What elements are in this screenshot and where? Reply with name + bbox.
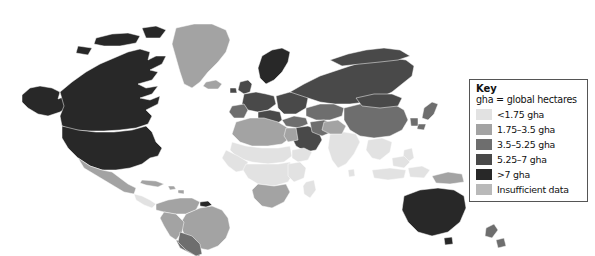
swatch-insufficient-data: [476, 184, 492, 195]
world-map-figure: Key gha = global hectares <1.75 gha 1.75…: [0, 0, 595, 256]
region-tasmania: [444, 237, 453, 245]
legend-label-insufficient-data: Insufficient data: [497, 184, 569, 195]
legend-label-3-5-to-5-25: 3.5–5.25 gha: [497, 139, 555, 150]
swatch-1-75-to-3-5: [476, 124, 492, 135]
swatch-over-7: [476, 169, 492, 180]
legend-label-1-75-to-3-5: 1.75–3.5 gha: [497, 124, 555, 135]
legend-item-5-25-to-7: 5.25–7 gha: [476, 152, 582, 167]
map-legend: Key gha = global hectares <1.75 gha 1.75…: [469, 79, 588, 202]
legend-label-over-7: >7 gha: [497, 169, 530, 180]
legend-item-insufficient-data: Insufficient data: [476, 182, 582, 197]
legend-item-3-5-to-5-25: 3.5–5.25 gha: [476, 137, 582, 152]
swatch-under-1-75: [476, 109, 492, 120]
legend-subtitle: gha = global hectares: [476, 94, 582, 106]
swatch-3-5-to-5-25: [476, 139, 492, 150]
legend-title: Key: [476, 83, 582, 94]
legend-label-under-1-75: <1.75 gha: [497, 109, 544, 120]
legend-item-under-1-75: <1.75 gha: [476, 107, 582, 122]
legend-label-5-25-to-7: 5.25–7 gha: [497, 154, 547, 165]
swatch-5-25-to-7: [476, 154, 492, 165]
region-korea: [410, 118, 418, 126]
legend-item-over-7: >7 gha: [476, 167, 582, 182]
legend-item-1-75-to-3-5: 1.75–3.5 gha: [476, 122, 582, 137]
region-sri-lanka: [348, 169, 355, 177]
